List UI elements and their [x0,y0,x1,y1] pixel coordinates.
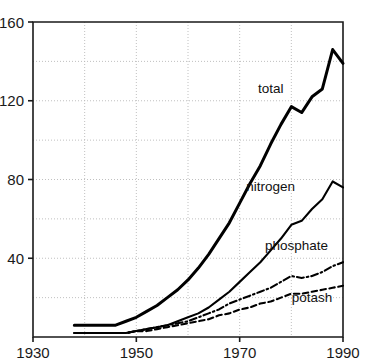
chart-background [0,0,365,364]
y-axis-tick-label: 160 [0,14,24,31]
series-label-phosphate: phosphate [265,238,328,253]
chart-plot-area: 4080120160 1930195019701990 totalnitroge… [0,0,365,364]
series-label-nitrogen: nitrogen [246,179,295,194]
x-axis-tick-label: 1970 [223,344,256,361]
x-axis-tick-label: 1990 [326,344,359,361]
series-label-potash: potash [292,290,333,305]
x-axis-tick-label: 1930 [16,344,49,361]
series-label-total: total [258,81,284,96]
y-axis-tick-label: 120 [0,92,24,109]
fertilizer-use-line-chart: 4080120160 1930195019701990 totalnitroge… [0,0,365,364]
x-axis-tick-label: 1950 [120,344,153,361]
y-axis-tick-label: 80 [7,171,24,188]
y-axis-tick-label: 40 [7,250,24,267]
